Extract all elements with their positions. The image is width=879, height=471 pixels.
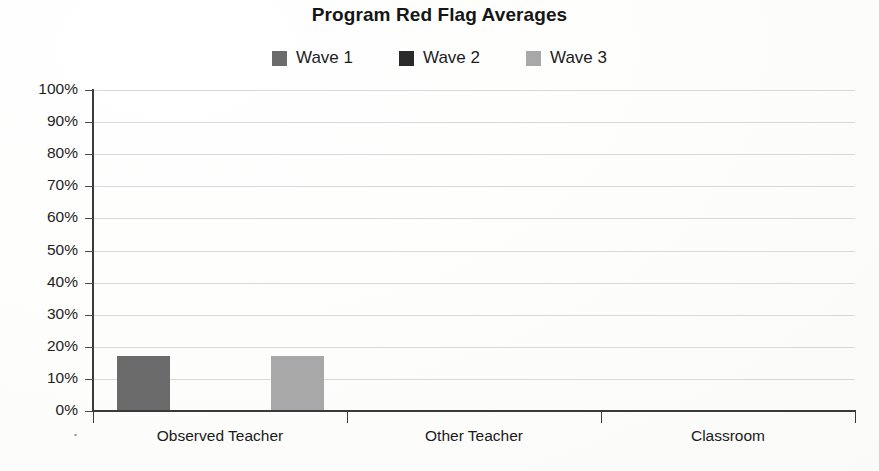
y-axis-label: 50% (12, 241, 78, 259)
bar-group (601, 90, 855, 411)
legend-item-wave-1: Wave 1 (272, 48, 353, 68)
bars-layer (93, 90, 855, 411)
bar-group (93, 90, 347, 411)
y-axis-tick (85, 347, 94, 348)
category-label: Classroom (601, 427, 855, 445)
legend-swatch-wave-1 (272, 51, 287, 66)
y-axis-tick (85, 379, 94, 380)
legend-item-wave-2: Wave 2 (399, 48, 480, 68)
x-axis-line (92, 410, 856, 412)
y-axis-label: 80% (12, 144, 78, 162)
y-axis-tick (85, 90, 94, 91)
x-axis-tick (93, 411, 94, 423)
y-axis-label: 90% (12, 112, 78, 130)
y-axis-tick (85, 154, 94, 155)
legend-label-wave-1: Wave 1 (296, 48, 353, 68)
x-axis-tick-end (855, 411, 856, 423)
y-axis-tick (85, 122, 94, 123)
y-axis-tick (85, 218, 94, 219)
legend-item-wave-3: Wave 3 (526, 48, 607, 68)
y-axis-tick (85, 186, 94, 187)
chart-title: Program Red Flag Averages (0, 4, 879, 26)
y-axis-label: 40% (12, 273, 78, 291)
category-label: Observed Teacher (93, 427, 347, 445)
x-axis-tick (601, 411, 602, 423)
y-axis-tick (85, 283, 94, 284)
y-axis-label: 70% (12, 176, 78, 194)
y-axis-tick (85, 251, 94, 252)
y-axis-label: 60% (12, 208, 78, 226)
y-axis-tick (85, 315, 94, 316)
y-axis-labels: 0%10%20%30%40%50%60%70%80%90%100% (12, 0, 78, 471)
y-axis-label: 20% (12, 337, 78, 355)
legend-label-wave-2: Wave 2 (423, 48, 480, 68)
bar-wave-3 (271, 356, 324, 411)
bar-group (347, 90, 601, 411)
y-axis-label: 10% (12, 369, 78, 387)
category-label: Other Teacher (347, 427, 601, 445)
scan-speck (74, 434, 77, 436)
chart-legend: Wave 1 Wave 2 Wave 3 (0, 48, 879, 68)
y-axis-label: 30% (12, 305, 78, 323)
y-axis-label: 0% (12, 401, 78, 419)
legend-label-wave-3: Wave 3 (550, 48, 607, 68)
legend-swatch-wave-2 (399, 51, 414, 66)
legend-swatch-wave-3 (526, 51, 541, 66)
x-axis-tick (347, 411, 348, 423)
chart-page: Program Red Flag Averages Wave 1 Wave 2 … (0, 0, 879, 471)
y-axis-label: 100% (12, 80, 78, 98)
plot-area (93, 90, 855, 411)
bar-wave-1 (117, 356, 170, 411)
